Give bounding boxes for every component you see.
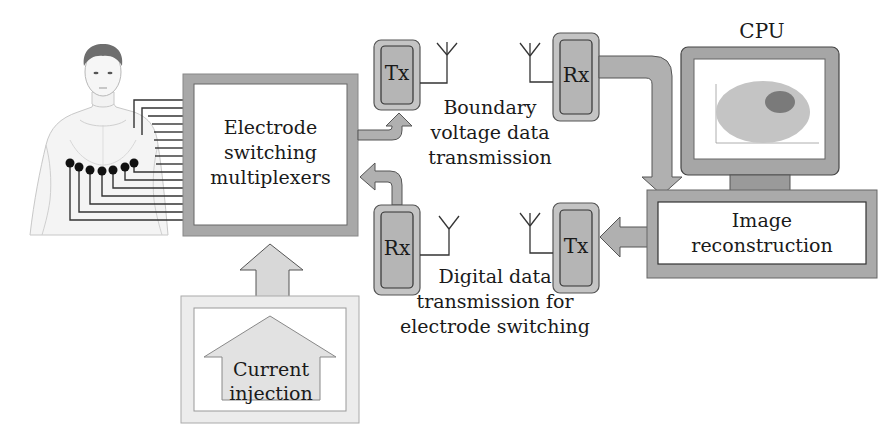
tx-right-label: Tx [560,234,592,258]
rx-right-label: Rx [560,63,592,87]
reconstruction-ellipse [716,81,810,143]
antenna-icon [520,43,553,82]
electrode-icon [98,167,107,176]
rx-to-mux-arrow [360,163,402,205]
cpu-label: CPU [712,19,812,44]
reconstruction-to-tx-arrow [600,217,648,257]
antenna-icon [420,42,457,83]
rx-left-label: Rx [381,236,413,260]
current-injection-label: Current injection [222,357,320,405]
rx-to-reconstruction-arrow [599,56,682,195]
patient-figure-icon [30,44,168,235]
electrode-icon [66,159,75,168]
eit-block-diagram: Electrode switching multiplexers Current… [0,0,894,445]
digital-data-annotation: Digital data transmission for electrode … [395,264,595,339]
electrode-icon [75,163,84,172]
electrode-icon [109,166,118,175]
antenna-icon [420,216,459,255]
cpu-monitor-icon [681,47,839,193]
image-reconstruction-label: Image reconstruction [658,208,866,258]
mux-to-tx-arrow [358,113,412,140]
tx-left-label: Tx [381,61,413,85]
electrode-icon [86,166,95,175]
anomaly-ellipse [765,91,795,113]
boundary-voltage-annotation: Boundary voltage data transmission [425,95,555,170]
antenna-icon [520,213,553,253]
electrode-icon [130,159,139,168]
electrode-icon [121,163,130,172]
multiplexer-label: Electrode switching multiplexers [194,115,347,190]
current-to-multiplexer-arrow [240,244,303,297]
